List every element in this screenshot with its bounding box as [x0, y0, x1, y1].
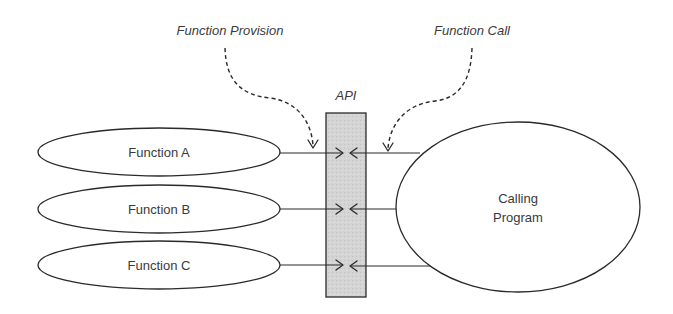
function-provision-pointer	[225, 48, 318, 148]
calling-program-node: Calling Program	[396, 122, 640, 292]
calling-program-label-line1: Calling	[498, 191, 538, 206]
calling-program-ellipse	[396, 122, 640, 292]
api-diagram: Function Provision Function Call API	[0, 0, 673, 314]
function-provision-label: Function Provision	[177, 23, 284, 38]
function-b-node: Function B	[38, 185, 280, 233]
function-c-label: Function C	[128, 258, 191, 273]
function-provision-dashed-curve	[225, 48, 313, 146]
api-label: API	[335, 88, 357, 103]
function-b-label: Function B	[128, 202, 190, 217]
function-a-node: Function A	[38, 128, 280, 176]
function-call-label: Function Call	[434, 23, 511, 38]
api-box	[326, 113, 366, 297]
function-a-label: Function A	[128, 145, 190, 160]
function-c-node: Function C	[38, 241, 280, 289]
calling-program-label-line2: Program	[493, 210, 543, 225]
